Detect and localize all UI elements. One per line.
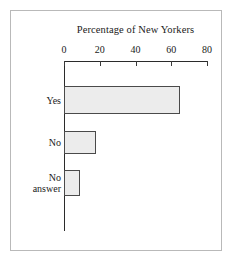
bar-no — [64, 131, 96, 154]
x-tick-40 — [136, 61, 137, 66]
chart-title: Percentage of New Yorkers — [64, 24, 207, 35]
category-label-2: No answer — [33, 172, 61, 194]
x-tick-label-20: 20 — [85, 44, 115, 55]
plot-area: Percentage of New Yorkers 020406080 YesN… — [0, 0, 233, 263]
x-tick-0 — [64, 61, 65, 66]
x-tick-label-0: 0 — [49, 44, 79, 55]
category-label-1: No — [49, 137, 61, 148]
x-tick-80 — [207, 61, 208, 66]
figure: Percentage of New Yorkers 020406080 YesN… — [0, 0, 233, 263]
bar-no-answer — [64, 170, 80, 196]
x-tick-label-40: 40 — [121, 44, 151, 55]
category-label-0: Yes — [46, 95, 61, 106]
x-tick-label-80: 80 — [192, 44, 222, 55]
x-tick-60 — [171, 61, 172, 66]
x-tick-20 — [100, 61, 101, 66]
x-tick-label-60: 60 — [156, 44, 186, 55]
bar-yes — [64, 86, 180, 114]
